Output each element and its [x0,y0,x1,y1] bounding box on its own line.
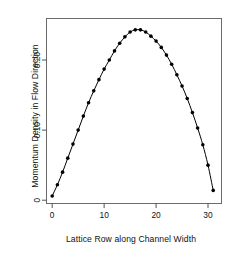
data-point [118,41,122,45]
data-point [201,143,205,147]
data-point [191,111,195,115]
data-point [139,28,143,32]
data-point [76,128,80,132]
data-point [154,39,158,43]
data-point [71,142,75,146]
data-point [128,30,132,34]
data-point [87,101,91,105]
data-point [211,189,215,193]
data-point [56,183,60,187]
x-axis-title: Lattice Row along Channel Width [40,234,222,244]
data-point [196,126,200,130]
data-point [159,46,163,50]
data-point [144,30,148,34]
data-point [206,163,210,167]
data-point [113,49,117,53]
data-point [92,89,96,93]
x-tick-label: 20 [151,210,161,220]
x-axis-tick-labels: 0102030 [50,210,213,220]
x-tick-label: 0 [50,210,55,220]
data-point [66,156,70,160]
data-point [61,170,65,174]
data-point [170,62,174,66]
chart-figure: 0102030 00.100.20 Momentum Density in Fl… [0,0,241,254]
data-point [123,35,127,39]
plot-frame [47,19,222,204]
x-tick-label: 10 [99,210,109,220]
data-point [185,97,189,101]
data-point [50,194,54,198]
data-point [108,58,112,62]
data-point [102,67,106,71]
x-tick-label: 30 [203,210,213,220]
y-axis-title: Momentum Density in Flow Direction [30,26,40,206]
data-point [165,53,169,57]
data-point [134,28,138,32]
data-point [175,73,179,77]
data-point [149,34,153,38]
data-point [82,114,86,118]
data-point [180,84,184,88]
data-point [97,78,101,82]
